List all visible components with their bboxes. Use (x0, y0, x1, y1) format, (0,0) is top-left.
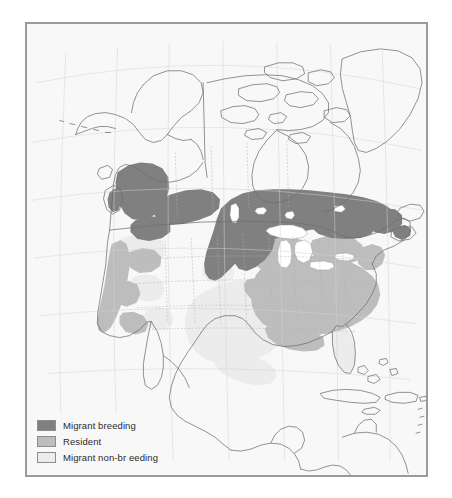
legend-label-migrant-non-breeding: Migrant non-br eeding (63, 452, 158, 463)
legend-item-migrant-non-breeding: Migrant non-br eeding (37, 450, 158, 465)
legend-item-migrant-breeding: Migrant breeding (37, 418, 158, 433)
legend-label-resident: Resident (63, 436, 101, 447)
map-canvas (26, 23, 427, 476)
legend-item-resident: Resident (37, 434, 158, 449)
legend-swatch-migrant-non-breeding (37, 452, 56, 463)
legend-swatch-migrant-breeding (37, 420, 56, 431)
range-map-figure: Migrant breeding Resident Migrant non-br… (25, 22, 428, 477)
map-legend: Migrant breeding Resident Migrant non-br… (31, 413, 166, 470)
legend-label-migrant-breeding: Migrant breeding (63, 420, 136, 431)
legend-swatch-resident (37, 436, 56, 447)
